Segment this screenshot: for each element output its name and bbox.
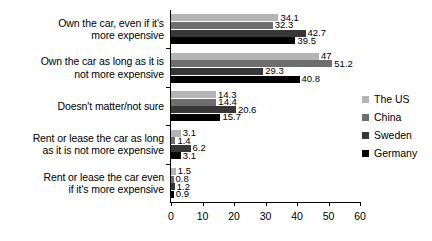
category-label-line: Rent or lease the car as long <box>0 132 164 144</box>
bar-value-label: 14.4 <box>218 97 237 107</box>
bar <box>171 137 175 144</box>
category-separator-tick <box>166 125 171 126</box>
axis-tick-mark <box>297 202 298 206</box>
axis-tick-mark <box>203 202 204 206</box>
legend-item-germany: Germany <box>362 146 432 164</box>
category-label-line: if it's more expensive <box>0 183 164 195</box>
legend-swatch-icon <box>362 132 369 139</box>
bar-value-label: 39.5 <box>297 36 316 46</box>
bar <box>171 30 306 37</box>
category-label-line: Rent or lease the car even <box>0 171 164 183</box>
legend-item-china: China <box>362 110 432 128</box>
category-label-line: Own the car as long as it is <box>0 55 164 67</box>
bar <box>171 99 216 106</box>
category-label-line: more expensive <box>0 29 164 41</box>
bar <box>171 183 175 190</box>
bar-value-label: 0.9 <box>176 189 189 199</box>
bar <box>171 152 181 159</box>
axis-tick-label: 60 <box>354 210 366 222</box>
category-separator-tick <box>166 87 171 88</box>
axis-tick-label: 40 <box>291 210 303 222</box>
legend-label: Sweden <box>374 128 412 143</box>
legend-item-sweden: Sweden <box>362 128 432 146</box>
bar <box>171 22 273 29</box>
bar <box>171 76 300 83</box>
axis-tick-mark <box>171 202 172 206</box>
bar <box>171 176 174 183</box>
category-label-line: as it is not more expensive <box>0 144 164 156</box>
legend-label: China <box>374 110 401 125</box>
category-label-line: not more expensive <box>0 68 164 80</box>
legend-label: Germany <box>374 146 417 161</box>
axis-tick-label: 20 <box>228 210 240 222</box>
bar-value-label: 51.2 <box>334 59 353 69</box>
axis-tick-label: 0 <box>168 210 174 222</box>
legend-item-the-us: The US <box>362 92 432 110</box>
category-label: Own the car as long as it isnot more exp… <box>0 55 164 79</box>
axis-tick-mark <box>234 202 235 206</box>
bar-value-label: 15.7 <box>222 112 241 122</box>
bar <box>171 37 295 44</box>
category-label-line: Doesn't matter/not sure <box>0 100 164 112</box>
bar-chart: Own the car, even if it'smore expensiveO… <box>0 0 432 241</box>
bar <box>171 114 220 121</box>
bar-value-label: 40.8 <box>302 74 321 84</box>
axis-tick-label: 30 <box>260 210 272 222</box>
legend-swatch-icon <box>362 114 369 121</box>
legend-swatch-icon <box>362 150 369 157</box>
category-label: Doesn't matter/not sure <box>0 100 164 112</box>
bar <box>171 60 332 67</box>
category-separator-tick <box>166 48 171 49</box>
category-label: Rent or lease the car as longas it is no… <box>0 132 164 156</box>
category-separator-tick <box>166 164 171 165</box>
category-label: Rent or lease the car evenif it's more e… <box>0 171 164 195</box>
legend-swatch-icon <box>362 96 369 103</box>
axis-tick-mark <box>329 202 330 206</box>
bar <box>171 91 216 98</box>
bar <box>171 68 263 75</box>
bar <box>171 191 174 198</box>
category-label-line: Own the car, even if it's <box>0 17 164 29</box>
bar-value-label: 47 <box>321 51 332 61</box>
axis-tick-label: 50 <box>323 210 335 222</box>
bar-value-label: 3.1 <box>183 151 196 161</box>
bar-value-label: 29.3 <box>265 66 284 76</box>
axis-tick-mark <box>360 202 361 206</box>
legend: The USChinaSwedenGermany <box>362 92 432 164</box>
axis-tick-label: 10 <box>197 210 209 222</box>
category-label: Own the car, even if it'smore expensive <box>0 17 164 41</box>
legend-label: The US <box>374 92 410 107</box>
plot-area: 0102030405060 34.132.342.739.54751.229.3… <box>171 10 360 202</box>
axis-tick-mark <box>266 202 267 206</box>
category-axis-labels: Own the car, even if it'smore expensiveO… <box>0 0 168 200</box>
bar-value-label: 32.3 <box>275 20 294 30</box>
bar-value-label: 1.4 <box>177 136 190 146</box>
bar <box>171 53 319 60</box>
bar <box>171 14 278 21</box>
